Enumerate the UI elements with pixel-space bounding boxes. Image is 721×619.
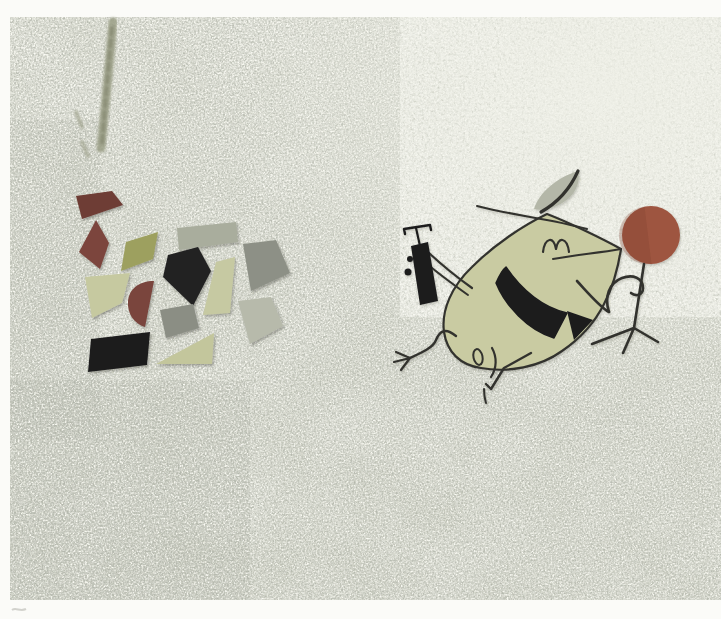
hand-finger-1 [407,256,413,262]
faint-margin-mark [12,609,26,610]
painting-scene [0,0,721,619]
photograph-of-painting [0,0,721,619]
canvas-background [10,17,721,600]
hand-finger-2 [405,269,412,276]
